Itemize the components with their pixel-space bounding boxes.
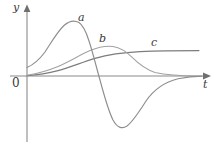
curve-a-path bbox=[27, 21, 202, 128]
y-axis-label: y bbox=[13, 2, 19, 13]
curve-label-b: b bbox=[99, 33, 106, 44]
curve-label-c: c bbox=[151, 37, 157, 48]
x-axis-label: t bbox=[203, 79, 207, 90]
figure-canvas: y t 0 a b c bbox=[0, 0, 216, 147]
plot-area bbox=[0, 0, 216, 147]
curve-label-a: a bbox=[78, 12, 85, 23]
y-axis-arrowhead bbox=[24, 5, 31, 13]
origin-label: 0 bbox=[12, 77, 20, 89]
curve-c-path bbox=[27, 51, 199, 76]
